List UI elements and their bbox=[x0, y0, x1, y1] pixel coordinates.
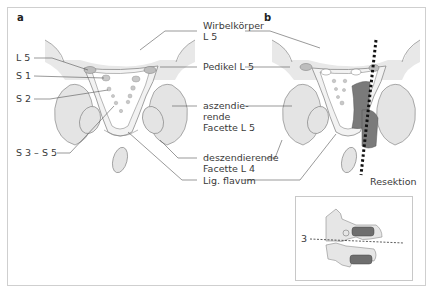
panel-a-letter: a bbox=[17, 12, 24, 23]
label-s2: S 2 bbox=[16, 93, 31, 104]
panel-b-illustration bbox=[272, 40, 420, 175]
panel-b-letter: b bbox=[264, 12, 271, 23]
label-pedikel: Pedikel L 5 bbox=[203, 61, 254, 72]
label-l5: L 5 bbox=[16, 52, 30, 63]
label-resektion: Resektion bbox=[370, 176, 417, 187]
level-line bbox=[310, 239, 404, 243]
label-wirbelkoerper: Wirbelkörper L 5 bbox=[203, 20, 264, 42]
label-aszendierende-facette: aszendie- rende Facette L 5 bbox=[203, 100, 255, 133]
label-s3-s5: S 3 – S 5 bbox=[16, 147, 57, 158]
label-s1: S 1 bbox=[16, 70, 31, 81]
panel-a-illustration bbox=[45, 40, 195, 174]
label-deszendierende-facette: deszendierende Facette L 4 bbox=[203, 152, 279, 174]
inset-lateral-view: 3 bbox=[295, 196, 413, 281]
label-lig-flavum: Lig. flavum bbox=[203, 175, 256, 186]
lateral-spine-illustration bbox=[296, 197, 414, 282]
inset-level-label: 3 bbox=[301, 233, 307, 244]
